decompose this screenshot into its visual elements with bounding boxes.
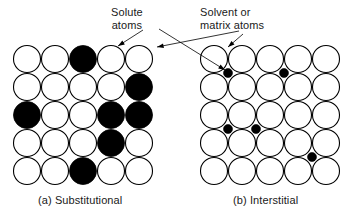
solute-atom: [70, 46, 97, 73]
solvent-label-line2: matrix atoms: [200, 19, 264, 32]
matrix-atom: [70, 74, 97, 101]
matrix-atom: [285, 74, 312, 101]
leader-line: [157, 31, 239, 47]
interstitial-atom: [308, 153, 317, 162]
matrix-atom: [14, 158, 41, 185]
matrix-atom: [257, 46, 284, 73]
matrix-atom: [285, 158, 312, 185]
matrix-atom: [126, 130, 153, 157]
matrix-atom: [14, 130, 41, 157]
matrix-atom: [42, 130, 69, 157]
matrix-atom: [229, 74, 256, 101]
solute-atom: [98, 130, 125, 157]
solute-label-line1: Solute: [111, 6, 143, 19]
solute-atom: [70, 158, 97, 185]
matrix-atom: [257, 74, 284, 101]
solute-atom: [126, 74, 153, 101]
matrix-atom: [229, 102, 256, 129]
matrix-atom: [42, 74, 69, 101]
matrix-atom: [126, 158, 153, 185]
matrix-atom: [229, 46, 256, 73]
matrix-atom: [98, 158, 125, 185]
matrix-atom: [313, 102, 340, 129]
solute-atom: [126, 102, 153, 129]
matrix-atom: [229, 130, 256, 157]
matrix-atom: [313, 130, 340, 157]
matrix-atom: [285, 46, 312, 73]
lattice-illustration: [0, 0, 353, 217]
interstitial-atom: [280, 69, 289, 78]
solvent-matrix-atoms-label: Solvent or matrix atoms: [200, 6, 264, 32]
matrix-atom: [14, 74, 41, 101]
solute-atom: [14, 102, 41, 129]
interstitial-atom: [224, 125, 233, 134]
caption-panel-a: (a) Substitutional: [38, 194, 122, 206]
matrix-atom: [98, 46, 125, 73]
interstitial-atom: [252, 125, 261, 134]
matrix-atom: [14, 46, 41, 73]
alloy-solid-solution-figure: Solute atoms Solvent or matrix atoms (a)…: [0, 0, 353, 217]
matrix-atom: [201, 158, 228, 185]
matrix-atom: [70, 102, 97, 129]
solvent-label-line1: Solvent or: [200, 6, 264, 19]
matrix-atom: [42, 46, 69, 73]
matrix-atom: [42, 102, 69, 129]
leader-arrowhead: [118, 40, 125, 46]
solute-atom: [98, 102, 125, 129]
matrix-atom: [285, 130, 312, 157]
caption-panel-b: (b) Interstitial: [233, 194, 298, 206]
matrix-atom: [313, 158, 340, 185]
matrix-atom: [313, 74, 340, 101]
matrix-atom: [257, 130, 284, 157]
matrix-atom: [285, 102, 312, 129]
matrix-atom: [201, 74, 228, 101]
matrix-atom: [201, 130, 228, 157]
solute-label-line2: atoms: [111, 19, 143, 32]
leader-arrowhead: [157, 43, 164, 48]
matrix-atom: [229, 158, 256, 185]
solute-atoms-label: Solute atoms: [111, 6, 143, 32]
lattice-grid-a: [14, 46, 153, 185]
matrix-atom: [126, 46, 153, 73]
matrix-atom: [42, 158, 69, 185]
matrix-atom: [313, 46, 340, 73]
matrix-atom: [257, 158, 284, 185]
matrix-atom: [70, 130, 97, 157]
matrix-atom: [257, 102, 284, 129]
matrix-atom: [98, 74, 125, 101]
matrix-atom: [201, 102, 228, 129]
